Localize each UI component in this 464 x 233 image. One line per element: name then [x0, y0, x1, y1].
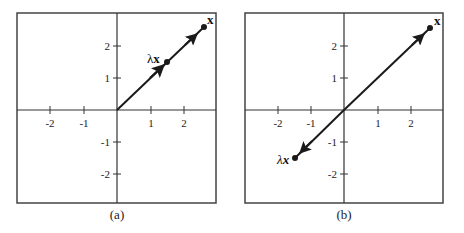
panel-a: -2 -1 1 2 2 1 -1 -2 x λx (a)	[17, 12, 216, 222]
x-tick-label: 1	[148, 117, 154, 129]
panel-b: -2 -1 1 2 2 1 -1 -2 x λx (b)	[245, 13, 443, 222]
point-lambda-x	[292, 155, 298, 161]
y-tick-label: 1	[105, 72, 111, 84]
x-tick-label: 2	[181, 117, 187, 129]
label-lambda-x: λx	[276, 152, 290, 167]
point-x	[427, 25, 433, 31]
y-tick-label: 1	[332, 72, 338, 84]
vector-x-arrowhead	[412, 34, 424, 45]
y-tick-label: -1	[101, 136, 110, 148]
x-symbol: x	[153, 51, 160, 66]
y-tick-label: -2	[101, 168, 110, 180]
x-tick-label: -1	[306, 117, 315, 129]
caption-a: (a)	[110, 207, 124, 222]
vector-lambda-x-arrowhead	[150, 65, 164, 78]
figure: -2 -1 1 2 2 1 -1 -2 x λx (a)	[0, 0, 464, 233]
y-tick-label: -1	[328, 136, 337, 148]
label-lambda-x: λx	[147, 51, 160, 66]
x-tick-label: 1	[375, 117, 381, 129]
y-tick-label: 2	[332, 40, 338, 52]
vector-lambda-x-arrowhead	[300, 141, 312, 153]
vector-x-arrowhead	[185, 34, 197, 45]
y-tick-label: 2	[105, 40, 111, 52]
point-lambda-x	[164, 59, 170, 65]
label-x: x	[434, 13, 441, 28]
x-tick-label: -1	[79, 117, 88, 129]
y-tick-label: -2	[328, 168, 337, 180]
x-tick-label: 2	[408, 117, 414, 129]
x-symbol: x	[282, 152, 290, 167]
x-tick-label: -2	[45, 117, 54, 129]
x-tick-label: -2	[273, 117, 282, 129]
caption-b: (b)	[336, 207, 351, 222]
label-x: x	[207, 12, 214, 27]
